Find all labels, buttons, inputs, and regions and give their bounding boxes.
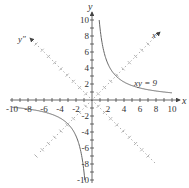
x-tick-label: -4 — [56, 104, 64, 114]
y-prime-axis-label: y″ — [17, 34, 26, 44]
x-axis-label: x — [181, 95, 187, 106]
x-prime-axis-label: x″ — [151, 30, 160, 40]
x-tick-label: -8 — [24, 104, 32, 114]
x-tick-label: -6 — [40, 104, 48, 114]
y-tick-label: 10 — [80, 15, 90, 25]
y-tick-label: 2 — [85, 79, 90, 89]
x-tick-labels: -10-8-6-4-2246810 — [6, 104, 177, 114]
y-tick-label: 4 — [85, 63, 90, 73]
x-tick-label: 10 — [168, 104, 178, 114]
x-tick-label: -10 — [6, 104, 18, 114]
x-tick-label: 8 — [154, 104, 159, 114]
equation-label: xy = 9 — [133, 78, 158, 88]
y-tick-label: -4 — [82, 127, 90, 137]
x-tick-label: -2 — [72, 104, 80, 114]
y-tick-label: 8 — [85, 31, 90, 41]
y-tick-label: 6 — [85, 47, 90, 57]
x-tick-label: 4 — [122, 104, 127, 114]
y-tick-label: -2 — [82, 111, 90, 121]
y-tick-label: -10 — [77, 175, 89, 185]
y-tick-label: -8 — [82, 159, 90, 169]
rotated-axes — [30, 32, 160, 163]
x-tick-label: 6 — [138, 104, 143, 114]
y-tick-label: -6 — [82, 143, 90, 153]
x-tick-label: 2 — [106, 104, 111, 114]
diagram-canvas: x y x″ y″ xy = 9 -10-8-6-4-2246810 10864… — [0, 0, 189, 188]
y-axis-label: y — [87, 1, 93, 12]
